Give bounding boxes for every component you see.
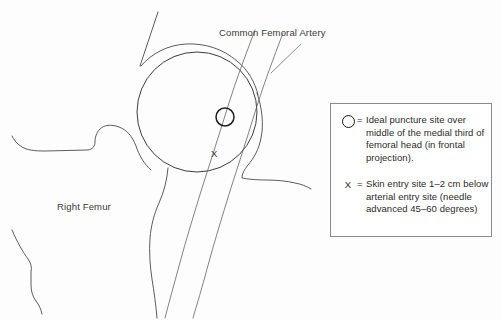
ideal-puncture-site-circle bbox=[216, 108, 234, 126]
common-femoral-artery-label: Common Femoral Artery bbox=[219, 27, 326, 38]
legend-key-circle bbox=[339, 114, 357, 128]
femoral-shaft-medial-border bbox=[150, 168, 168, 318]
legend-box: = Ideal puncture site over middle of the… bbox=[330, 103, 492, 237]
skin-entry-site-x-marker: X bbox=[211, 148, 217, 159]
legend-equals-sign-puncture: = bbox=[357, 114, 366, 127]
legend-equals-sign-skin-entry: = bbox=[357, 178, 366, 191]
diagram-canvas: Common Femoral Artery Right Femur X = Id… bbox=[0, 0, 502, 320]
right-femur-label: Right Femur bbox=[57, 201, 111, 212]
legend-key-x: X bbox=[339, 178, 357, 191]
legend-text-skin-entry-site: Skin entry site 1–2 cm below arterial en… bbox=[366, 178, 489, 216]
artery-label-leader-line bbox=[271, 44, 301, 73]
legend-entry-skin-entry-site: X = Skin entry site 1–2 cm below arteria… bbox=[339, 178, 489, 216]
femoral-shaft-lateral-border bbox=[12, 230, 42, 314]
legend-entry-puncture-site: = Ideal puncture site over middle of the… bbox=[339, 114, 489, 164]
groin-soft-tissue-outline bbox=[242, 93, 311, 189]
circle-icon bbox=[342, 115, 355, 128]
femoral-head-circle bbox=[137, 52, 257, 172]
legend-text-puncture-site: Ideal puncture site over middle of the m… bbox=[366, 114, 489, 164]
femur-outline bbox=[12, 125, 151, 170]
x-marker-icon: X bbox=[345, 179, 351, 191]
femoral-artery-lateral-wall bbox=[165, 30, 255, 318]
